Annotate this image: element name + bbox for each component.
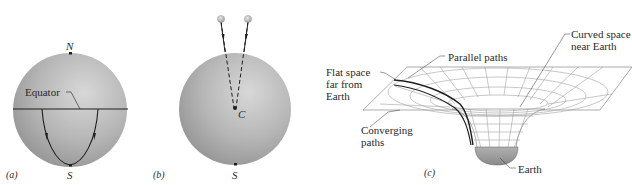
flat-space-label-2: far from [326,78,362,90]
south-pole-marker-b [234,163,237,166]
figure-canvas [0,0,632,185]
converging-label-1: Converging [361,124,413,136]
panel-b [179,15,291,165]
curved-space-label-2: near Earth [571,40,617,52]
south-label: S [67,169,73,181]
panel-label-b: (b) [153,169,165,180]
panel-label-c: (c) [424,167,435,178]
ball-left-icon [217,15,224,22]
converging-label-2: paths [361,136,384,148]
curved-space-label-1: Curved space [571,28,631,40]
earth-label: Earth [518,163,542,175]
earth-shape [475,147,518,165]
center-point [233,106,237,110]
south-label-b: S [232,169,238,181]
equator-label: Equator [25,86,60,98]
panel-a [13,52,128,167]
parallel-paths-label: Parallel paths [448,51,508,63]
north-label: N [66,40,73,52]
flat-space-label-3: Earth [326,90,350,102]
flat-space-leader [380,72,396,80]
south-pole-marker [69,164,72,167]
center-label: C [238,108,245,120]
ball-right-icon [244,15,251,22]
north-pole-marker [69,52,72,55]
sphere-a [13,53,127,167]
panel-label-a: (a) [6,169,18,180]
flat-space-label-1: Flat space [326,66,370,78]
